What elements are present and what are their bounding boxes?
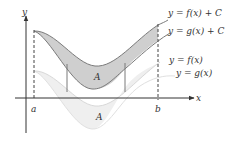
label-g-plus-c: y = g(x) + C xyxy=(167,26,224,36)
label-g: y = g(x) xyxy=(175,68,213,78)
lower-region-label: A xyxy=(95,112,103,122)
y-axis-label: y xyxy=(21,7,28,17)
label-f-plus-c: y = f(x) + C xyxy=(167,8,222,18)
area-translation-diagram: x y a b A A y = f(x) + C y = g(x) + C y … xyxy=(0,0,234,144)
x-axis-label: x xyxy=(196,93,201,103)
bound-b-label: b xyxy=(155,104,161,114)
upper-region-label: A xyxy=(93,72,101,82)
label-f: y = f(x) xyxy=(168,55,203,65)
bound-a-label: a xyxy=(31,104,36,114)
